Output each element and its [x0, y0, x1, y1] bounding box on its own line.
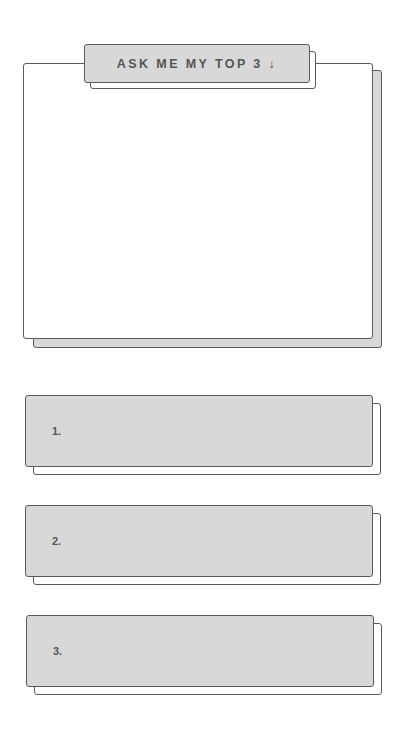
answer-1-number: 1. [52, 425, 61, 437]
main-card[interactable] [23, 63, 373, 339]
title-label: ASK ME MY TOP 3 ↓ [84, 44, 310, 83]
answer-3-box[interactable]: 3. [26, 615, 374, 687]
answer-3-number: 3. [53, 645, 62, 657]
title-text: ASK ME MY TOP 3 ↓ [117, 57, 277, 71]
answer-1-box[interactable]: 1. [25, 395, 373, 467]
answer-2-number: 2. [52, 535, 61, 547]
answer-2-box[interactable]: 2. [25, 505, 373, 577]
